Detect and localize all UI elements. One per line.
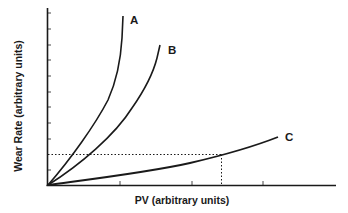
wear-rate-chart <box>0 0 348 213</box>
curve-a-label: A <box>130 14 138 26</box>
curve-b-label: B <box>168 44 176 56</box>
curve-a <box>48 16 123 185</box>
curve-c-label: C <box>285 131 293 143</box>
y-axis-label: Wear Rate (arbitrary units) <box>12 40 24 172</box>
x-axis-label: PV (arbitrary units) <box>135 194 230 206</box>
